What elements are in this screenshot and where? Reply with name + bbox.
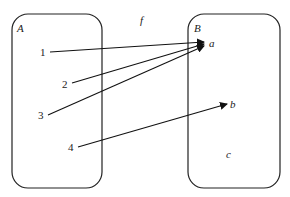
function-label: f: [140, 14, 145, 26]
set-b-label: B: [194, 22, 201, 34]
arrow-4-to-b: [78, 104, 227, 147]
arrow-2-to-a: [72, 44, 204, 83]
set-a-boundary: [12, 14, 102, 188]
element-4: 4: [68, 141, 74, 153]
element-3: 3: [38, 109, 44, 121]
element-a: a: [209, 37, 215, 49]
mapping-arrows: [48, 42, 227, 147]
element-b: b: [230, 98, 236, 110]
arrow-3-to-a: [48, 46, 204, 115]
function-mapping-diagram: f A B 1 2 3 4 a b c: [0, 0, 290, 197]
element-c: c: [226, 148, 231, 160]
element-1: 1: [40, 46, 46, 58]
set-a-label: A: [16, 22, 24, 34]
element-2: 2: [62, 78, 68, 90]
